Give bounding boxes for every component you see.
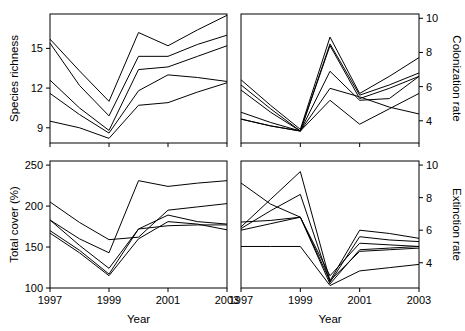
y-tick-label: 10 [426, 12, 438, 24]
x-axis-title: Year [318, 313, 341, 325]
series-line-site-4 [50, 75, 227, 133]
series-line-site-2 [50, 202, 227, 240]
y-axis-title: Total cover (%) [8, 186, 20, 263]
y-tick-label: 4 [426, 257, 432, 269]
series-line-site-4 [241, 217, 419, 284]
series-line-site-6 [241, 217, 419, 280]
series-line-site-3 [50, 46, 227, 131]
y-tick-label: 6 [426, 81, 432, 93]
x-tick-label: 2003 [407, 294, 431, 306]
panel-colonization-rate: 46810Colonization rate [241, 12, 463, 147]
x-tick-label: 1999 [97, 294, 121, 306]
y-tick-label: 8 [426, 46, 432, 58]
series-line-site-2 [241, 194, 419, 282]
series-line-site-1 [50, 15, 227, 101]
series-line-site-2 [50, 35, 227, 116]
y-tick-label: 12 [31, 82, 43, 94]
series-line-site-1 [241, 172, 419, 281]
y-axis-title: Colonization rate [451, 35, 463, 121]
x-tick-label: 2001 [347, 294, 371, 306]
x-tick-label: 2001 [156, 294, 180, 306]
x-tick-label: 1999 [288, 294, 312, 306]
panel-extinction-rate: 468101997199920012003Extinction rateYear [229, 159, 463, 325]
y-tick-label: 200 [25, 200, 43, 212]
series-line-site-6 [241, 93, 419, 131]
series-line-site-4 [50, 225, 227, 274]
series-line-site-1 [50, 181, 227, 253]
figure-panel-grid: 91215Species richness46810Colonization r… [0, 0, 465, 331]
x-axis-title: Year [127, 313, 150, 325]
y-axis-title: Extinction rate [451, 188, 463, 261]
x-tick-label: 1997 [229, 294, 253, 306]
series-line-site-3 [241, 183, 419, 276]
x-tick-label: 1997 [38, 294, 62, 306]
multi-panel-line-chart: 91215Species richness46810Colonization r… [0, 0, 465, 331]
y-tick-label: 6 [426, 224, 432, 236]
y-axis-title: Species richness [8, 35, 20, 122]
series-line-site-4 [241, 71, 419, 131]
y-tick-label: 250 [25, 159, 43, 171]
y-tick-label: 9 [37, 122, 43, 134]
plot-frame [241, 14, 419, 143]
y-tick-label: 8 [426, 192, 432, 204]
panel-species-richness: 91215Species richness [8, 14, 227, 147]
y-tick-label: 100 [25, 282, 43, 294]
y-tick-label: 4 [426, 115, 432, 127]
y-tick-label: 15 [31, 42, 43, 54]
y-tick-label: 150 [25, 241, 43, 253]
panel-total-cover: 1001502002501997199920012003Total cover … [8, 159, 239, 325]
series-line-site-3 [50, 215, 227, 268]
y-tick-label: 10 [426, 159, 438, 171]
